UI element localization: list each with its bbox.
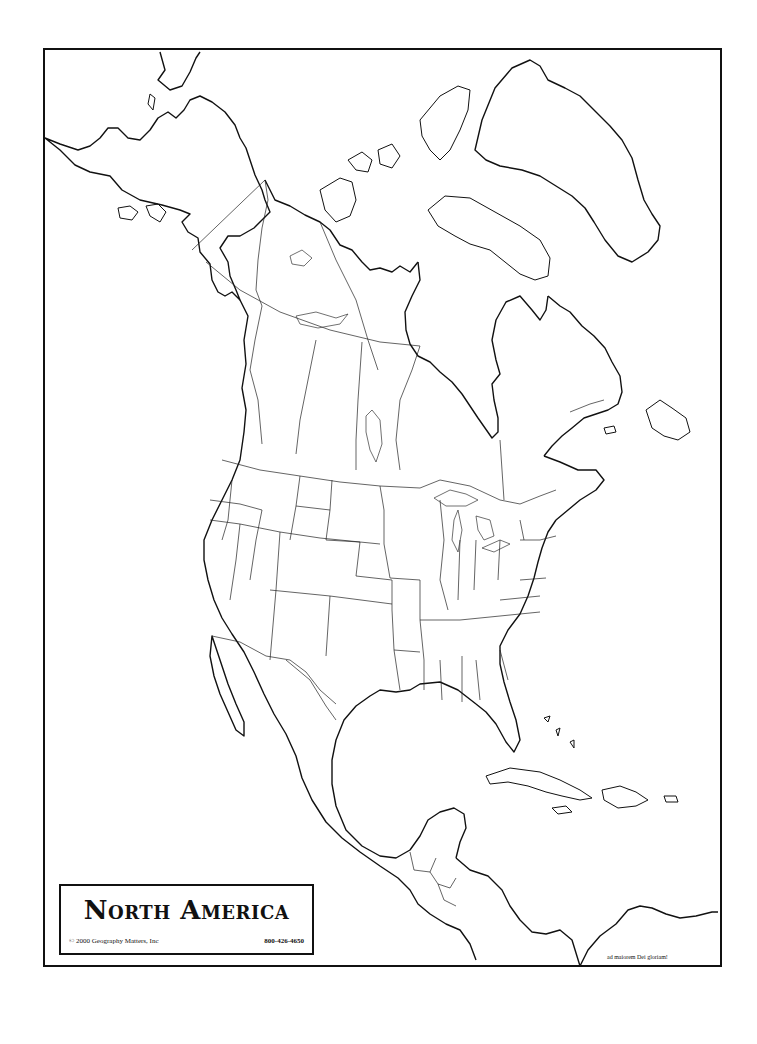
arctic-island xyxy=(378,144,400,168)
central-america-borders xyxy=(410,852,456,906)
island xyxy=(146,204,166,222)
us-mexico-border xyxy=(212,636,336,704)
yukon-nwt-border xyxy=(256,180,268,306)
canada-arctic-coast xyxy=(265,180,418,272)
baffin-island xyxy=(428,196,550,280)
gulf-island xyxy=(604,426,616,434)
arctic-island xyxy=(348,152,372,172)
great-slave-lake xyxy=(296,312,348,328)
motto-text: ad maiorem Dei gloriam! xyxy=(607,954,668,960)
bahamas xyxy=(544,716,574,748)
hudson-bay-coast xyxy=(405,262,548,438)
baja-california xyxy=(210,636,244,736)
labrador-coast xyxy=(544,296,622,456)
nwt-nunavut-border xyxy=(320,222,378,370)
alaska-canada-border xyxy=(192,180,265,250)
map-title: North America xyxy=(61,895,312,925)
pacific-coast xyxy=(204,300,476,960)
maritimes-coast xyxy=(544,456,604,520)
lake-huron xyxy=(476,516,494,540)
puerto-rico xyxy=(664,796,678,802)
title-cartouche: North America © 2000 Geography Matters, … xyxy=(59,884,314,955)
us-canada-border xyxy=(222,460,556,504)
ellesmere-island xyxy=(420,86,470,160)
greenland-coast xyxy=(475,60,660,262)
copyright-notice: © 2000 Geography Matters, Inc xyxy=(69,937,159,945)
lake-winnipeg xyxy=(366,410,382,462)
island xyxy=(148,94,155,110)
island xyxy=(118,206,138,220)
jamaica xyxy=(552,806,572,814)
gulf-coast xyxy=(332,682,476,858)
central-america-coast xyxy=(456,858,580,966)
siberia-coast xyxy=(158,52,200,90)
latitude-60-border xyxy=(206,262,420,346)
victoria-island xyxy=(320,178,356,222)
bc-alberta-border xyxy=(250,306,262,444)
newfoundland xyxy=(646,400,690,440)
manitoba-ontario-border xyxy=(396,346,420,470)
great-bear-lake xyxy=(290,250,312,266)
alaska-coast xyxy=(45,96,270,300)
saskatchewan-manitoba-border xyxy=(356,342,362,470)
ontario-quebec-border xyxy=(500,440,504,500)
alberta-saskatchewan-border xyxy=(296,340,316,454)
cuba xyxy=(486,768,592,800)
lake-michigan xyxy=(452,510,462,552)
labrador-quebec-border xyxy=(570,400,604,412)
hispaniola xyxy=(602,786,648,808)
us-east-coast xyxy=(476,520,556,752)
lake-erie xyxy=(482,540,510,552)
phone-number: 800-426-4650 xyxy=(264,937,304,945)
